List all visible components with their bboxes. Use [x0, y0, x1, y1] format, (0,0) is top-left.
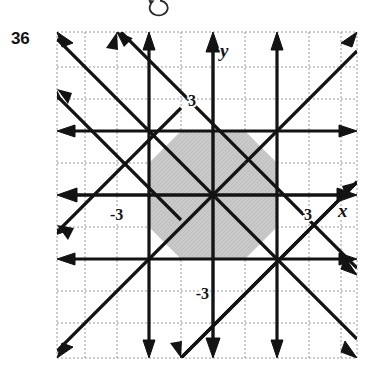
tick-label-y-3: 3	[188, 92, 196, 109]
coordinate-graph: 3 -3 3 -3 y x	[0, 0, 376, 368]
tick-label-y-minus-3: -3	[196, 285, 209, 302]
y-axis-label: y	[218, 40, 229, 61]
tick-label-x-minus-3: -3	[110, 206, 123, 223]
x-axis-label: x	[337, 200, 348, 221]
worksheet-figure: 36	[0, 0, 376, 368]
tick-label-x-3: 3	[304, 206, 312, 223]
